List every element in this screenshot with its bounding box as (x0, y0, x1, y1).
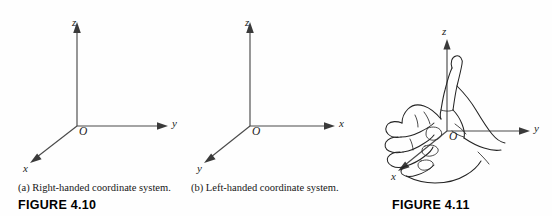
axis-label-y-panel-b: y (197, 163, 202, 174)
caption-panel-a: (a) Right-handed coordinate system. (18, 182, 171, 194)
axis-z-panel-b (246, 22, 254, 126)
coordinate-system-right-handed (30, 22, 168, 163)
axis-label-y-hand: y (534, 123, 539, 134)
coordinate-system-left-handed (204, 22, 335, 163)
origin-label-panel-a: O (79, 126, 87, 138)
axis-x-panel-a (30, 126, 77, 163)
hand-drawing (385, 56, 505, 183)
origin-label-hand: O (449, 131, 457, 143)
axis-y-hand (447, 127, 530, 134)
axis-label-z-panel-a: z (72, 17, 76, 28)
axis-label-z-panel-b: z (245, 17, 249, 28)
right-hand-rule-illustration (385, 39, 530, 183)
figure-number-4-11: FIGURE 4.11 (392, 199, 470, 212)
axis-label-x-panel-b: x (339, 118, 344, 129)
axis-label-x-hand: x (391, 171, 396, 182)
axis-label-y-panel-a: y (172, 118, 177, 129)
caption-panel-b: (b) Left-handed coordinate system. (191, 182, 339, 194)
axis-label-z-hand: z (442, 26, 446, 37)
axis-z-panel-a (73, 22, 81, 126)
origin-label-panel-b: O (252, 126, 260, 138)
axis-y-panel-a (77, 122, 168, 129)
figure-page: z y x O (a) Right-handed coordinate syst… (0, 0, 552, 216)
axis-z-hand (443, 39, 450, 131)
axis-x-panel-b (250, 122, 335, 129)
figure-number-4-10: FIGURE 4.10 (18, 199, 96, 212)
axis-y-panel-b (204, 126, 250, 163)
axis-label-x-panel-a: x (23, 163, 28, 174)
